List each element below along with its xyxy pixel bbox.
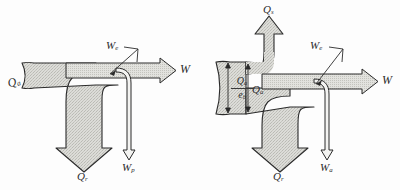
- left-pump-channel: [116, 68, 135, 160]
- label-right-reject-qr: Qr: [273, 171, 284, 183]
- label-right-work-electric-we: We: [310, 40, 322, 52]
- figure-canvas: Qa We W Qr Wp Qs Qa eb Qa We W Qr Wa: [0, 0, 400, 190]
- fraction-numerator: Qa: [231, 76, 253, 87]
- fraction-denominator: eb: [231, 90, 253, 101]
- label-right-solar-qs: Qs: [263, 4, 274, 16]
- flow-diagram-graphic: [0, 0, 400, 190]
- left-diagram-group: [22, 47, 176, 172]
- label-right-aux-wa: Wa: [320, 162, 333, 174]
- right-main-flow-band: [246, 88, 314, 172]
- label-left-work-electric-we: We: [106, 40, 118, 52]
- label-right-inner-qa: Qa: [252, 84, 263, 96]
- label-left-work-out-w: W: [180, 63, 190, 75]
- label-right-fraction-qa-over-eb: Qa eb: [231, 76, 253, 100]
- label-left-reject-qr: Qr: [77, 171, 88, 183]
- label-right-work-out-w: W: [382, 74, 392, 86]
- left-main-flow-band: [22, 62, 118, 172]
- label-left-pump-wp: Wp: [122, 162, 135, 174]
- right-solar-up-stem: [246, 52, 274, 74]
- right-aux-channel: [314, 79, 333, 160]
